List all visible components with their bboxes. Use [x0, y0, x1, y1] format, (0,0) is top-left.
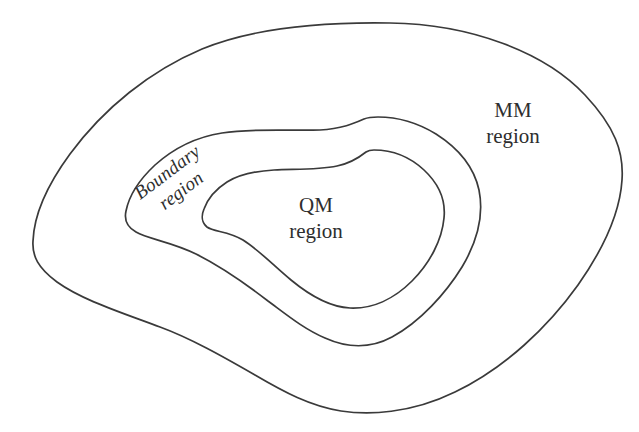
qm-region-label-line2: region — [268, 219, 364, 245]
mm-region-label-line1: MM — [465, 98, 561, 124]
qm-region-label-line1: QM — [268, 193, 364, 219]
diagram-canvas: MM region QM region Boundary region — [0, 0, 639, 432]
mm-region-label: MM region — [465, 98, 561, 149]
mm-region-label-line2: region — [465, 124, 561, 150]
qm-region-label: QM region — [268, 193, 364, 244]
